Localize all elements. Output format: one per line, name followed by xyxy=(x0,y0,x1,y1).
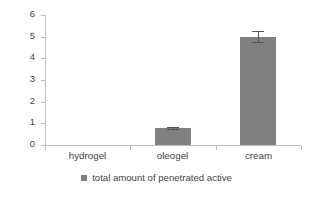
y-tick-label: 3 xyxy=(15,73,35,84)
error-bar-cap-lower xyxy=(252,42,264,43)
y-tick-label: 2 xyxy=(15,95,35,106)
y-tick: 4 xyxy=(41,58,45,59)
y-tick-label: 5 xyxy=(15,30,35,41)
bar xyxy=(155,128,191,145)
x-axis-category-label: hydrogel xyxy=(45,150,130,161)
error-bar-cap-upper xyxy=(252,31,264,32)
y-tick: 1 xyxy=(41,123,45,124)
legend-swatch xyxy=(81,175,87,181)
x-axis-labels: hydrogeloleogelcream xyxy=(45,150,301,166)
bar-chart: Amount of penetrated avtie [µg] 0123456 … xyxy=(0,0,313,199)
error-bar-cap-upper xyxy=(167,127,179,128)
y-tick: 5 xyxy=(41,37,45,38)
y-tick: 2 xyxy=(41,102,45,103)
x-axis-category-label: oleogel xyxy=(130,150,215,161)
x-axis-line xyxy=(45,145,301,146)
legend-label: total amount of penetrated active xyxy=(92,172,232,183)
bar xyxy=(240,37,276,145)
y-tick-label: 4 xyxy=(15,51,35,62)
error-bar-cap-lower xyxy=(167,129,179,130)
x-axis-category-label: cream xyxy=(216,150,301,161)
y-tick-label: 1 xyxy=(15,116,35,127)
y-tick-label: 6 xyxy=(15,8,35,19)
plot-area: 0123456 xyxy=(45,15,301,145)
y-axis-line xyxy=(45,15,46,145)
y-tick-label: 0 xyxy=(15,138,35,149)
y-tick: 3 xyxy=(41,80,45,81)
y-tick: 6 xyxy=(41,15,45,16)
x-tick xyxy=(301,146,302,150)
chart-legend: total amount of penetrated active xyxy=(0,172,313,183)
error-bar xyxy=(258,31,259,42)
